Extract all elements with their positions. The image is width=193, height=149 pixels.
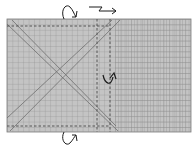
dense-grid-region: [115, 19, 191, 132]
origami-diagram: [0, 0, 193, 149]
paper-sheet: [7, 19, 191, 132]
turn-over-arrow-bottom-icon: [63, 132, 77, 144]
zigzag-arrow-top-icon: [89, 7, 116, 14]
turn-over-arrow-top-icon: [63, 6, 77, 19]
